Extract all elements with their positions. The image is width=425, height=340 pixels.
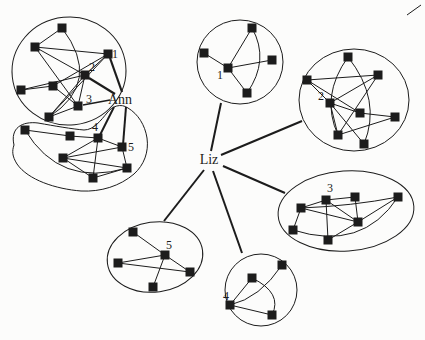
graph-node <box>21 126 30 135</box>
node-label-3: 3 <box>86 92 92 106</box>
graph-edge <box>93 138 98 178</box>
graph-node <box>17 86 26 95</box>
graph-edge <box>252 278 275 315</box>
graph-edge <box>153 255 165 287</box>
graph-node <box>186 268 195 277</box>
graph-node <box>58 24 67 33</box>
person-link-liz-liz-group-4 <box>213 171 242 253</box>
graph-edge <box>133 232 165 255</box>
graph-node <box>394 193 403 202</box>
graph-edge <box>53 54 108 86</box>
graph-node <box>224 64 233 73</box>
graph-node <box>289 226 298 235</box>
node-label-1: 1 <box>112 47 118 61</box>
graph-node <box>45 113 54 122</box>
graph-node <box>59 154 68 163</box>
person-link-ann-ann-group-b <box>123 107 126 145</box>
graph-node <box>354 218 363 227</box>
node-label-1: 1 <box>217 68 223 82</box>
graph-node <box>326 99 335 108</box>
graph-edge <box>247 28 260 93</box>
graph-node <box>324 236 333 245</box>
graph-node <box>89 174 98 183</box>
graph-edge <box>118 255 165 263</box>
graph-node <box>303 76 312 85</box>
node-label-4: 4 <box>92 120 98 134</box>
graph-edge <box>35 47 78 106</box>
graph-edge <box>307 75 378 80</box>
graph-node <box>268 311 277 320</box>
graph-edge <box>228 60 272 68</box>
node-label-2: 2 <box>318 89 324 103</box>
graph-node <box>66 132 75 141</box>
graph-node <box>322 196 331 205</box>
graph-edge <box>293 197 398 236</box>
person-link-liz-liz-group-2 <box>221 121 302 155</box>
graph-edge <box>230 305 272 315</box>
graph-node <box>374 71 383 80</box>
graph-node <box>248 24 257 33</box>
graph-node <box>360 140 369 149</box>
graph-node <box>334 131 343 140</box>
node-label-5: 5 <box>128 140 134 154</box>
graph-node <box>118 143 127 152</box>
graph-edge <box>25 130 70 136</box>
cluster-outline-ann-group-a <box>7 11 132 130</box>
graph-node <box>356 109 365 118</box>
node-label-5: 5 <box>166 238 172 252</box>
stray-mark <box>407 5 421 15</box>
cluster-outline-liz-group-2 <box>299 49 409 151</box>
graph-edge <box>228 28 252 68</box>
graph-node <box>129 228 138 237</box>
graph-edge <box>301 208 358 222</box>
graph-node <box>200 49 209 58</box>
person-label-liz: Liz <box>200 152 219 167</box>
graph-edge <box>330 75 378 103</box>
graph-node <box>391 113 400 122</box>
node-label-2: 2 <box>89 60 95 74</box>
person-link-liz-liz-group-5 <box>164 170 204 221</box>
person-label-ann: Ann <box>108 92 132 107</box>
graph-edge <box>338 75 378 135</box>
graph-node <box>123 164 132 173</box>
node-label-4: 4 <box>223 289 229 303</box>
graph-node <box>94 134 103 143</box>
graph-node <box>248 274 257 283</box>
person-link-liz-liz-group-1 <box>211 103 221 151</box>
node-label-3: 3 <box>327 181 333 195</box>
graph-node <box>31 43 40 52</box>
figure-container: 1234512345AnnLiz <box>0 0 425 340</box>
graph-node <box>114 259 123 268</box>
graph-node <box>49 82 58 91</box>
person-link-liz-liz-group-3 <box>223 166 285 193</box>
graph-node <box>344 53 353 62</box>
graph-edge <box>326 200 358 222</box>
graph-node <box>278 261 287 270</box>
sociogram-canvas: 1234512345AnnLiz <box>0 0 425 340</box>
person-link-ann-ann-group-a <box>110 58 122 92</box>
graph-node <box>351 193 360 202</box>
graph-edge <box>338 117 395 135</box>
graph-node <box>297 204 306 213</box>
graph-edge <box>360 113 395 117</box>
graph-node <box>74 102 83 111</box>
graph-node <box>149 283 158 292</box>
graph-node <box>268 56 277 65</box>
graph-node <box>243 89 252 98</box>
